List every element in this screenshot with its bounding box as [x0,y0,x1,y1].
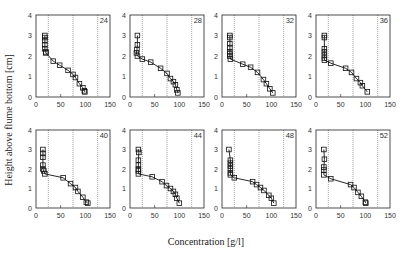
x-tick-label: 100 [359,212,371,219]
y-tick-label: 2 [214,53,218,60]
x-tick-label: 50 [151,101,159,108]
y-tick-label: 4 [28,127,32,134]
y-tick-label: 3 [28,32,32,39]
y-tick-label: 0 [28,205,32,212]
panel-52: 0123405010015052 [308,127,396,220]
y-tick-label: 0 [308,94,312,101]
y-tick-label: 0 [308,205,312,212]
y-tick-label: 4 [214,127,218,134]
y-tick-label: 2 [28,53,32,60]
x-tick-label: 100 [79,101,91,108]
y-tick-label: 2 [308,53,312,60]
y-tick-label: 4 [214,12,218,19]
y-tick-label: 2 [214,166,218,173]
panel-label: 24 [100,16,108,25]
x-tick-label: 0 [220,212,224,219]
y-tick-label: 2 [122,53,126,60]
panel-36: 0123405010015036 [308,12,396,109]
x-tick-label: 50 [243,101,251,108]
y-tick-label: 0 [214,94,218,101]
y-tick-label: 0 [122,94,126,101]
y-tick-label: 1 [28,73,32,80]
x-tick-label: 0 [34,101,38,108]
y-axis-label: Height above flume bottom [cm] [3,54,14,186]
x-tick-label: 50 [337,101,345,108]
x-tick-label: 100 [359,101,371,108]
series-line [230,36,273,93]
x-tick-label: 100 [265,212,277,219]
panel-label: 52 [380,131,388,140]
x-tick-label: 150 [290,212,302,219]
panel-44: 0123405010015044 [122,127,210,220]
y-tick-label: 1 [122,73,126,80]
y-tick-label: 3 [214,32,218,39]
x-tick-label: 150 [290,101,302,108]
figure: 0123405010015024012340501001502801234050… [0,0,412,255]
x-axis-label: Concentration [g/l] [168,236,244,247]
y-tick-label: 4 [308,127,312,134]
panel-24: 0123405010015024 [28,12,116,109]
y-tick-label: 2 [122,166,126,173]
y-tick-label: 1 [214,73,218,80]
y-tick-label: 0 [28,94,32,101]
y-tick-label: 1 [308,185,312,192]
panel-48: 0123405010015048 [214,127,302,220]
y-tick-label: 4 [122,12,126,19]
x-tick-label: 100 [173,212,185,219]
y-tick-label: 4 [308,12,312,19]
y-tick-label: 1 [214,185,218,192]
x-tick-label: 50 [243,212,251,219]
y-tick-label: 0 [214,205,218,212]
panel-label: 48 [286,131,294,140]
panel-40: 0123405010015040 [28,127,116,220]
y-tick-label: 3 [308,146,312,153]
x-tick-label: 50 [337,212,345,219]
y-tick-label: 4 [122,127,126,134]
x-tick-label: 0 [314,101,318,108]
panel-label: 32 [286,16,294,25]
panel-label: 40 [100,131,108,140]
y-tick-label: 2 [308,166,312,173]
x-tick-label: 0 [128,101,132,108]
x-tick-label: 100 [79,212,91,219]
panels-group: 0123405010015024012340501001502801234050… [28,12,396,220]
x-tick-label: 50 [57,101,65,108]
x-tick-label: 100 [265,101,277,108]
x-tick-label: 0 [34,212,38,219]
x-tick-label: 150 [104,212,116,219]
x-tick-label: 150 [384,101,396,108]
panel-label: 44 [194,131,202,140]
x-tick-label: 100 [173,101,185,108]
x-tick-label: 0 [128,212,132,219]
y-tick-label: 4 [28,12,32,19]
y-tick-label: 2 [28,166,32,173]
y-tick-label: 1 [122,185,126,192]
x-tick-label: 150 [384,212,396,219]
y-tick-label: 3 [214,146,218,153]
x-tick-label: 150 [198,212,210,219]
y-tick-label: 3 [308,32,312,39]
panel-label: 28 [194,16,202,25]
y-tick-label: 3 [28,146,32,153]
x-tick-label: 50 [57,212,65,219]
x-tick-label: 0 [220,101,224,108]
panel-32: 0123405010015032 [214,12,302,109]
panel-label: 36 [380,16,388,25]
series-line [229,150,274,204]
x-tick-label: 150 [104,101,116,108]
y-tick-label: 1 [28,185,32,192]
panel-28: 0123405010015028 [122,12,210,109]
x-tick-label: 150 [198,101,210,108]
data-point [177,201,182,206]
x-tick-label: 0 [314,212,318,219]
y-tick-label: 3 [122,32,126,39]
y-tick-label: 3 [122,146,126,153]
y-tick-label: 0 [122,205,126,212]
y-tick-label: 1 [308,73,312,80]
x-tick-label: 50 [151,212,159,219]
